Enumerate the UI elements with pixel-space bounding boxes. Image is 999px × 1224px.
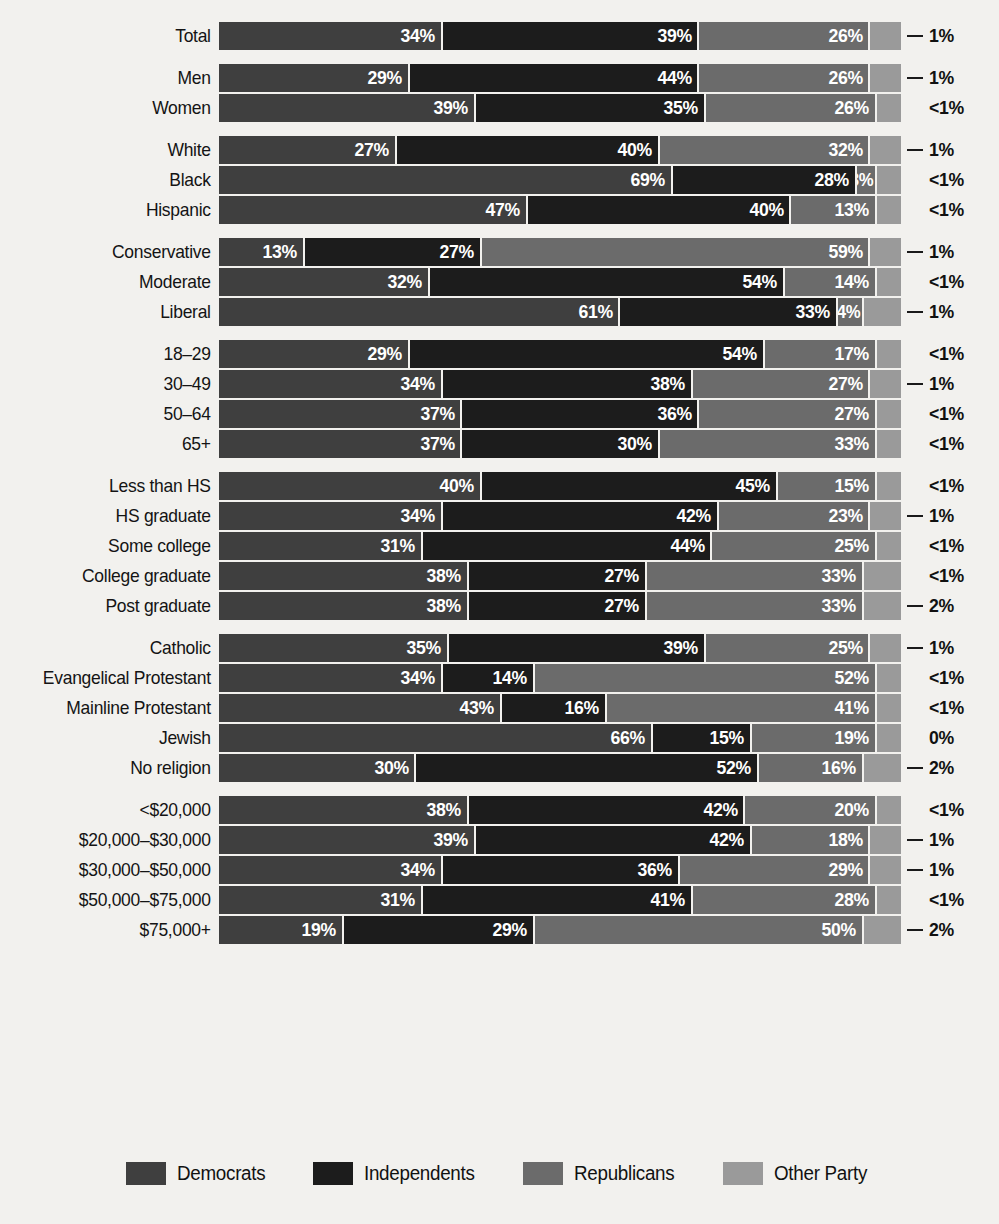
bar-segment-republicans: 14% [785,268,877,296]
bar-segment-other-party [877,724,901,752]
other-party-value: <1% [929,196,964,224]
other-party-callout: 1% [901,634,999,662]
bar-segment-republicans: 50% [535,916,864,944]
chart-group: <$20,00038%42%20%<1%$20,000–$30,00039%42… [0,796,999,946]
chart-group: 18–2929%54%17%<1%30–4934%38%27%1%50–6437… [0,340,999,460]
other-party-callout: 1% [901,826,999,854]
stacked-bar: 31%41%28% [219,886,901,914]
row-label: Hispanic [18,196,219,224]
row-label: 18–29 [18,340,219,368]
stacked-bar: 19%29%50% [219,916,901,944]
chart-row: Men29%44%26%1% [0,64,999,94]
segment-value: 54% [743,268,777,296]
segment-value: 13% [835,196,869,224]
row-label: Conservative [18,238,219,266]
other-party-value: 1% [929,136,954,164]
chart-row: Moderate32%54%14%<1% [0,268,999,298]
chart-row: Mainline Protestant43%16%41%<1% [0,694,999,724]
other-party-callout: <1% [901,472,999,500]
leader-line [907,383,923,385]
segment-value: 69% [631,166,665,194]
chart-row: <$20,00038%42%20%<1% [0,796,999,826]
row-label: Mainline Protestant [18,694,219,722]
bar-segment-democrats: 38% [219,796,469,824]
segment-value: 44% [670,532,704,560]
chart-row: Less than HS40%45%15%<1% [0,472,999,502]
segment-value: 43% [460,694,494,722]
other-party-callout: <1% [901,166,999,194]
other-party-value: <1% [929,400,964,428]
segment-value: 27% [835,400,869,428]
segment-value: 19% [302,916,336,944]
segment-value: 34% [400,370,434,398]
bar-segment-independents: 33% [620,298,837,326]
other-party-value: 2% [929,916,954,944]
other-party-callout: <1% [901,532,999,560]
bar-segment-other-party [877,340,901,368]
segment-value: 25% [828,634,862,662]
segment-value: 31% [381,886,415,914]
bar-segment-democrats: 29% [219,340,410,368]
other-party-value: 2% [929,754,954,782]
other-party-callout: <1% [901,268,999,296]
bar-segment-republicans: 33% [647,592,864,620]
chart-row: Catholic35%39%25%1% [0,634,999,664]
other-party-value: 1% [929,502,954,530]
legend-item-ind: Independents [313,1162,482,1185]
segment-value: 61% [578,298,612,326]
row-label: Men [18,64,219,92]
segment-value: 29% [828,856,862,884]
stacked-bar: 27%40%32% [219,136,901,164]
segment-value: 34% [400,502,434,530]
segment-value: 44% [657,64,691,92]
row-label: Post graduate [18,592,219,620]
leader-line [907,35,923,37]
segment-value: 40% [749,196,783,224]
bar-segment-democrats: 34% [219,856,443,884]
stacked-bar: 38%42%20% [219,796,901,824]
stacked-bar: 34%36%29% [219,856,901,884]
bar-segment-democrats: 29% [219,64,410,92]
chart-row: White27%40%32%1% [0,136,999,166]
other-party-callout: 1% [901,22,999,50]
bar-segment-democrats: 61% [219,298,620,326]
other-party-value: <1% [929,694,964,722]
leader-line [907,929,923,931]
bar-segment-other-party [864,754,901,782]
segment-value: 45% [736,472,770,500]
segment-value: 59% [828,238,862,266]
segment-value: 38% [427,592,461,620]
segment-value: 41% [835,694,869,722]
leader-line [907,647,923,649]
chart-row: HS graduate34%42%23%1% [0,502,999,532]
other-party-value: 0% [929,724,954,752]
row-label: Less than HS [18,472,219,500]
stacked-bar: 34%42%23% [219,502,901,530]
chart-row: $50,000–$75,00031%41%28%<1% [0,886,999,916]
segment-value: 29% [368,64,402,92]
row-label: Black [18,166,219,194]
bar-segment-other-party [877,400,901,428]
stacked-bar: 30%52%16% [219,754,901,782]
legend-item-oth: Other Party [723,1162,873,1185]
other-party-value: <1% [929,796,964,824]
bar-segment-other-party [870,238,901,266]
bar-segment-democrats: 27% [219,136,397,164]
segment-value: 35% [664,94,698,122]
chart-row: 30–4934%38%27%1% [0,370,999,400]
segment-value: 17% [835,340,869,368]
segment-value: 39% [433,94,467,122]
bar-segment-democrats: 34% [219,664,443,692]
other-party-value: 1% [929,826,954,854]
other-party-callout: <1% [901,886,999,914]
bar-segment-other-party [870,64,901,92]
stacked-bar: 32%54%14% [219,268,901,296]
bar-segment-republicans: 16% [759,754,864,782]
segment-value: 52% [835,664,869,692]
legend-item-dem: Democrats [126,1162,271,1185]
bar-segment-republicans: 59% [482,238,870,266]
bar-segment-democrats: 31% [219,886,423,914]
bar-segment-democrats: 40% [219,472,482,500]
segment-value: 13% [262,238,296,266]
other-party-callout: 1% [901,856,999,884]
